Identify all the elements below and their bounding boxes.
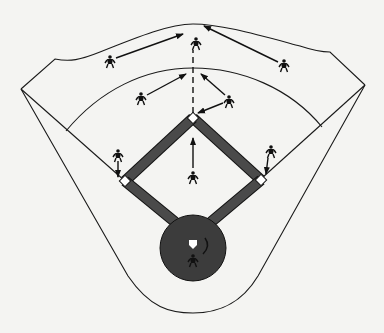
second-baseman-icon [224, 95, 234, 108]
baseball-field-diagram [0, 0, 384, 333]
center-fielder-icon [191, 37, 201, 50]
right-fielder-arrow [204, 26, 278, 62]
shortstop-arrow [147, 74, 186, 95]
basepath-first-home [211, 180, 261, 222]
first-baseman-arrow [266, 158, 268, 174]
left-fielder-arrow [116, 34, 183, 58]
basepath-second-first [193, 118, 261, 180]
basepath-third-home [125, 181, 175, 222]
foul-line-right [262, 85, 365, 178]
foul-line-left [21, 89, 125, 181]
basepath-second-third [125, 118, 193, 181]
first-baseman-icon [266, 145, 276, 158]
second-baseman-arrow-outfield [201, 74, 225, 95]
pitcher-icon [188, 171, 198, 184]
right-fielder-icon [279, 59, 289, 72]
left-fielder-icon [105, 55, 115, 68]
shortstop-icon [136, 92, 146, 105]
second-baseman-arrow-base [198, 103, 223, 113]
third-baseman-icon [113, 149, 123, 162]
